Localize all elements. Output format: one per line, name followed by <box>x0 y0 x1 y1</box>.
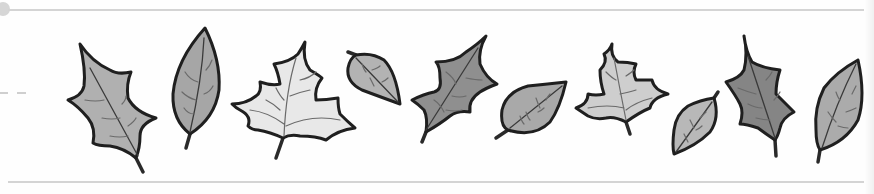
maple-leaf-icon <box>232 42 355 158</box>
ovate-leaf-icon <box>816 60 862 162</box>
round-leaf-icon <box>673 92 718 154</box>
holly-leaf-icon <box>412 36 497 142</box>
holly-leaf-icon <box>726 36 794 156</box>
leaves-group <box>0 0 874 194</box>
holly-leaf-icon <box>68 44 156 172</box>
ovate-leaf-icon <box>173 28 219 148</box>
round-leaf-icon <box>496 82 566 138</box>
maple-leaf-icon <box>576 44 668 134</box>
leaf-border-illustration <box>0 0 874 194</box>
round-leaf-icon <box>348 52 400 104</box>
